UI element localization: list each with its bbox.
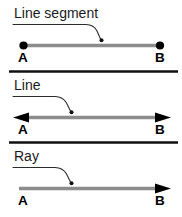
point-label-a-line: A	[18, 122, 28, 137]
endpoint-dot-a-line-segment	[19, 41, 27, 49]
point-label-b-ray: B	[155, 193, 165, 208]
panel-title-line-segment: Line segment	[14, 5, 98, 21]
geometry-diagram: Line segment A B Line	[0, 0, 182, 217]
panel-line: Line A B	[13, 77, 171, 137]
endpoint-dot-b-line-segment	[156, 41, 164, 49]
point-label-a-ray: A	[18, 193, 28, 208]
callout-leader-line	[13, 97, 71, 112]
point-label-a-line-segment: A	[18, 50, 28, 65]
point-label-b-line: B	[155, 122, 165, 137]
panel-title-ray: Ray	[14, 148, 39, 164]
callout-dot-ray	[70, 181, 74, 185]
callout-leader-line-segment	[13, 25, 101, 40]
callout-leader-ray	[13, 168, 71, 183]
callout-dot-line	[70, 110, 74, 114]
point-label-b-line-segment: B	[155, 50, 165, 65]
panel-title-line: Line	[14, 77, 41, 93]
callout-dot-line-segment	[100, 38, 104, 42]
panel-line-segment: Line segment A B	[13, 5, 165, 65]
panel-ray: Ray A B	[13, 148, 171, 208]
